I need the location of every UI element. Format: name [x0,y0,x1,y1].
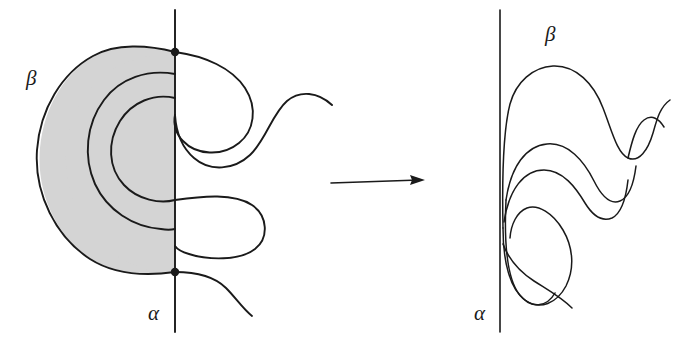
beta-lower-loop-right [503,207,572,305]
transformation-arrow [331,175,425,185]
beta-upper-right-lobe [174,52,252,153]
alpha-label-left: α [148,303,159,324]
beta-middle-tail-right [175,94,332,168]
beta-lower-right-strand [175,272,252,316]
beta-label-left: β [26,68,36,89]
beta-inner-lower-right [504,170,628,222]
beta-inner-upper-right [506,144,636,202]
figure-canvas: β α β α [0,0,690,340]
beta-outer-curve-right [503,66,670,228]
intersection-dot-top [171,48,179,56]
shaded-region-group [39,47,175,273]
intersection-dot-bottom [171,268,179,276]
left-panel-graphic [0,0,690,340]
beta-label-right: β [545,24,555,45]
alpha-label-right: α [474,303,485,324]
beta-right-hook [628,117,664,158]
beta-bottom-tail-right [503,244,572,308]
beta-core-tail-right [175,196,265,258]
